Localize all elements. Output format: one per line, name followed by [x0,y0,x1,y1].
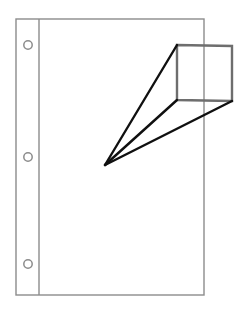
hole-punch-middle [24,153,32,161]
hole-punch-bottom [24,260,32,268]
perspective-diagram [0,0,246,313]
hole-punch-top [24,41,32,49]
sight-line-to-bottom-left [105,100,177,165]
diagram-canvas [0,0,246,313]
